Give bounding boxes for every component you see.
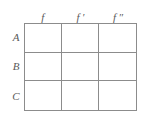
column-header-row: f f ′ f ″ <box>24 4 137 23</box>
table-cell-a-f-double-prime[interactable] <box>99 24 136 53</box>
table-cell-b-f-prime[interactable] <box>62 53 99 82</box>
row-label-column: A B C <box>8 23 24 111</box>
row-label-a: A <box>8 23 24 52</box>
worksheet-table-figure: f f ′ f ″ A B C <box>0 0 151 122</box>
table-cell-b-f-double-prime[interactable] <box>99 53 136 82</box>
table-cell-b-f[interactable] <box>25 53 62 82</box>
table-cell-c-f-double-prime[interactable] <box>99 81 136 110</box>
column-header-f: f <box>24 4 62 23</box>
table-grid <box>24 23 137 111</box>
row-label-c: C <box>8 82 24 111</box>
table-cell-a-f[interactable] <box>25 24 62 53</box>
column-header-f-double-prime: f ″ <box>99 4 137 23</box>
column-header-f-prime: f ′ <box>62 4 100 23</box>
table-cell-c-f-prime[interactable] <box>62 81 99 110</box>
table-cell-a-f-prime[interactable] <box>62 24 99 53</box>
table-cell-c-f[interactable] <box>25 81 62 110</box>
row-label-b: B <box>8 52 24 81</box>
